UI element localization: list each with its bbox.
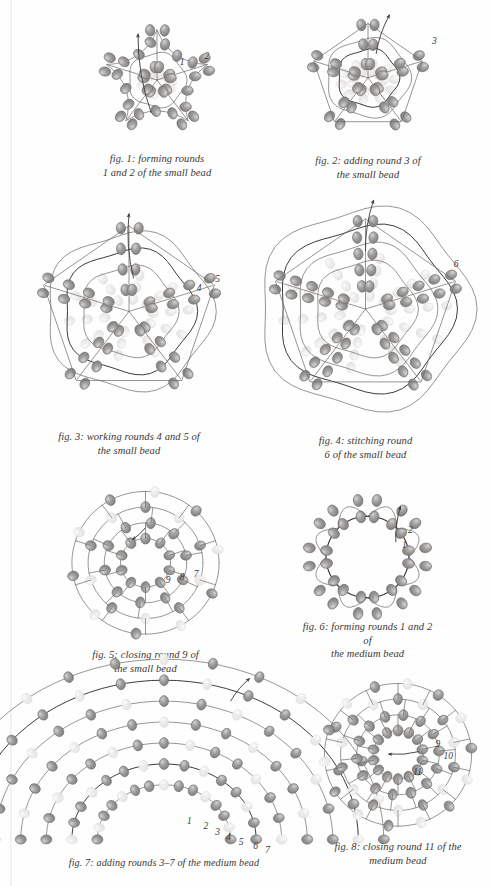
page-canvas: 12fig. 1: forming rounds 1 and 2 of the … (0, 0, 492, 886)
figure-6-callout-1: 1 (402, 541, 407, 551)
figure-8-callout-10: 10 (444, 752, 454, 762)
figure-4-artwork: 6 (248, 200, 483, 432)
figure-3-caption: fig. 3: working rounds 4 and 5 of the sm… (14, 430, 244, 457)
figure-8-caption: fig. 8: closing round 11 of the medium b… (318, 840, 478, 867)
figure-6-callout-2: 2 (408, 526, 413, 536)
figure-8-artwork: 91011 (318, 678, 478, 838)
figure-7: 1234567fig. 7: adding rounds 3–7 of the … (28, 672, 300, 870)
figure-8: 91011fig. 8: closing round 11 of the med… (318, 678, 478, 867)
figure-3-callout-4: 4 (197, 284, 202, 294)
figure-2-caption: fig. 2: adding round 3 of the small bead (278, 154, 458, 181)
figure-7-callout-2: 2 (203, 822, 208, 832)
figure-7-callout-5: 5 (239, 838, 244, 848)
figure-4-callout-6: 6 (454, 260, 459, 270)
figure-7-callout-6: 6 (253, 842, 258, 852)
figure-1-caption: fig. 1: forming rounds 1 and 2 of the sm… (62, 152, 252, 179)
figure-7-artwork: 1234567 (28, 672, 300, 854)
figure-8-callout-11: 11 (413, 768, 422, 778)
figure-6: 21fig. 6: forming rounds 1 and 2 of the … (300, 496, 435, 661)
figure-2-artwork: 3 (278, 12, 458, 152)
gutter-rule-left-shadow (11, 0, 12, 886)
figure-5-artwork: 987 (58, 486, 233, 646)
figure-6-artwork: 21 (300, 496, 435, 618)
figure-2-callout-3: 3 (432, 37, 437, 47)
figure-4-caption: fig. 4: stitching round 6 of the small b… (248, 434, 483, 461)
figure-7-caption: fig. 7: adding rounds 3–7 of the medium … (28, 856, 300, 870)
figure-5-callout-8: 8 (180, 573, 185, 583)
figure-7-callout-7: 7 (265, 846, 270, 856)
figure-6-caption: fig. 6: forming rounds 1 and 2 of the me… (300, 620, 435, 661)
figure-3: 45fig. 3: working rounds 4 and 5 of the … (14, 208, 244, 457)
figure-7-callout-1: 1 (187, 817, 192, 827)
figure-4: 6fig. 4: stitching round 6 of the small … (248, 200, 483, 461)
figure-3-callout-5: 5 (215, 275, 220, 285)
figure-7-callout-3: 3 (215, 828, 220, 838)
figure-1-artwork: 12 (62, 18, 252, 150)
figure-5: 987fig. 5: closing round 9 of the small … (58, 486, 233, 675)
figure-1-callout-1: 1 (180, 58, 185, 68)
figure-5-caption: fig. 5: closing round 9 of the small bea… (58, 648, 233, 675)
figure-5-callout-7: 7 (194, 570, 199, 580)
figure-5-callout-9: 9 (166, 576, 171, 586)
figure-1-callout-2: 2 (205, 52, 210, 62)
figure-8-callout-9: 9 (436, 740, 441, 750)
figure-1: 12fig. 1: forming rounds 1 and 2 of the … (62, 18, 252, 179)
figure-2: 3fig. 2: adding round 3 of the small bea… (278, 12, 458, 181)
figure-7-callout-4: 4 (226, 833, 231, 843)
figure-3-artwork: 45 (14, 208, 244, 428)
